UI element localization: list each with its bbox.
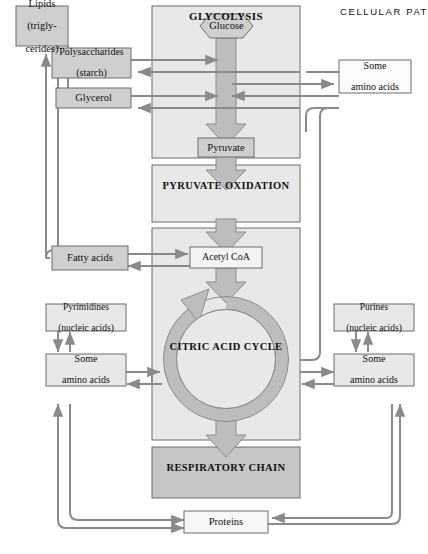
polysaccharides-line2: (starch) [52, 68, 131, 79]
node-label-glucose: Glucose [198, 14, 255, 38]
node-label-amino-right: Some amino acids [334, 354, 414, 386]
amino-top-right-line1: Some [339, 61, 411, 72]
panel-title-pyruvate-oxidation: PYRUVATE OXIDATION [152, 180, 300, 192]
node-label-glycerol: Glycerol [56, 88, 131, 108]
node-label-lipids: Lipids (trigly- cerides) [16, 6, 68, 46]
amino-left-line1: Some [46, 354, 126, 365]
purines-line2: (nucleic acids) [334, 323, 414, 333]
node-label-proteins: Proteins [184, 511, 268, 533]
node-label-pyrimidines: Pyrimidines (nucleic acids) [46, 304, 126, 331]
node-label-acetyl-coa: Acetyl CoA [190, 247, 262, 268]
pyruvate-oxidation-line2: OXIDATION [225, 180, 290, 191]
amino-left-line2: amino acids [46, 375, 126, 386]
node-label-purines: Purines (nucleic acids) [334, 304, 414, 331]
panel-title-citric-acid-cycle: CITRIC ACID CYCLE [152, 341, 300, 353]
lipids-line1: Lipids [16, 0, 68, 9]
pyrimidines-line1: Pyrimidines [46, 302, 126, 312]
pyrimidines-line2: (nucleic acids) [46, 323, 126, 333]
page-header: CELLULAR PAT [340, 6, 428, 17]
node-label-fatty-acids: Fatty acids [52, 246, 128, 270]
purines-line1: Purines [334, 302, 414, 312]
respiratory-chain-line2: CHAIN [249, 462, 286, 473]
node-label-pyruvate: Pyruvate [198, 138, 254, 157]
amino-right-line2: amino acids [334, 375, 414, 386]
respiratory-chain-line1: RESPIRATORY [166, 462, 245, 473]
node-label-amino-left: Some amino acids [46, 354, 126, 386]
citric-acid-cycle-line3: CYCLE [244, 341, 283, 352]
amino-right-line1: Some [334, 354, 414, 365]
amino-top-right-line2: amino acids [339, 82, 411, 93]
citric-acid-cycle-line1: CITRIC [169, 341, 209, 352]
node-label-polysaccharides: Polysaccharides (starch) [52, 48, 131, 78]
citric-acid-cycle-line2: ACID [212, 341, 240, 352]
pyruvate-oxidation-line1: PYRUVATE [162, 180, 221, 191]
lipids-line2: (trigly- [16, 20, 68, 31]
polysaccharides-line1: Polysaccharides [52, 47, 131, 58]
panel-title-respiratory-chain: RESPIRATORY CHAIN [152, 462, 300, 474]
node-label-amino-top-right: Some amino acids [339, 60, 411, 93]
